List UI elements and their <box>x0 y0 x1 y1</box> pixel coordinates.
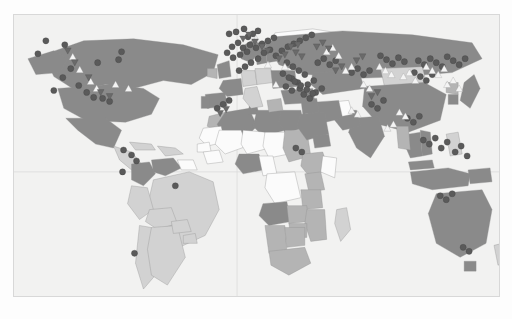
circle-marker[interactable] <box>172 183 178 189</box>
circle-marker[interactable] <box>349 70 355 76</box>
circle-marker[interactable] <box>464 153 470 159</box>
circle-marker[interactable] <box>389 61 395 67</box>
circle-marker[interactable] <box>315 60 321 66</box>
world-map-canvas[interactable]: GreenlandCanadaAlaskaUnited StatesMexico… <box>14 15 499 296</box>
circle-marker[interactable] <box>433 60 439 66</box>
circle-marker[interactable] <box>248 60 254 66</box>
circle-marker[interactable] <box>128 152 134 158</box>
circle-marker[interactable] <box>443 197 449 203</box>
circle-marker[interactable] <box>244 49 250 55</box>
circle-marker[interactable] <box>368 101 374 107</box>
country-portugal[interactable]: Portugal <box>201 96 209 108</box>
circle-marker[interactable] <box>290 64 296 70</box>
circle-marker[interactable] <box>230 55 236 61</box>
circle-marker[interactable] <box>417 73 423 79</box>
circle-marker[interactable] <box>416 113 422 119</box>
circle-marker[interactable] <box>283 83 289 89</box>
country-cuba[interactable]: Cuba <box>130 142 156 150</box>
circle-marker[interactable] <box>410 119 416 125</box>
country-kazakhstan[interactable]: Kazakhstan <box>311 71 365 95</box>
circle-marker[interactable] <box>380 97 386 103</box>
circle-marker[interactable] <box>456 62 462 68</box>
circle-marker[interactable] <box>319 85 325 91</box>
circle-marker[interactable] <box>60 74 66 80</box>
circle-marker[interactable] <box>133 158 139 164</box>
circle-marker[interactable] <box>292 78 298 84</box>
circle-marker[interactable] <box>265 38 271 44</box>
country-new-zealand[interactable]: New Zealand <box>494 243 499 265</box>
circle-marker[interactable] <box>327 62 333 68</box>
circle-marker[interactable] <box>226 31 232 37</box>
country-angola[interactable]: Angola <box>259 202 291 226</box>
country-nigeria[interactable]: Nigeria <box>235 154 263 174</box>
country-argentina[interactable]: Argentina <box>147 226 185 286</box>
circle-marker[interactable] <box>242 64 248 70</box>
circle-marker[interactable] <box>432 135 438 141</box>
circle-marker[interactable] <box>237 52 243 58</box>
circle-marker[interactable] <box>286 74 292 80</box>
circle-marker[interactable] <box>321 56 327 62</box>
country-dr-congo[interactable]: DR Congo <box>265 172 301 204</box>
country-canada[interactable]: Canada <box>44 39 218 91</box>
circle-marker[interactable] <box>377 53 383 59</box>
circle-marker[interactable] <box>35 51 41 57</box>
country-madagascar[interactable]: Madagascar <box>335 208 351 242</box>
country-united-kingdom[interactable]: United Kingdom <box>217 61 231 79</box>
country-greece[interactable]: Greece <box>267 98 283 112</box>
circle-marker[interactable] <box>401 59 407 65</box>
circle-marker[interactable] <box>120 147 126 153</box>
circle-marker[interactable] <box>438 145 444 151</box>
circle-marker[interactable] <box>449 191 455 197</box>
circle-marker[interactable] <box>229 44 235 50</box>
circle-marker[interactable] <box>95 60 101 66</box>
circle-marker[interactable] <box>289 87 295 93</box>
circle-marker[interactable] <box>236 68 242 74</box>
country-south-korea[interactable]: South Korea <box>448 94 458 104</box>
circle-marker[interactable] <box>233 29 239 35</box>
circle-marker[interactable] <box>51 87 57 93</box>
circle-marker[interactable] <box>302 71 308 77</box>
circle-marker[interactable] <box>304 86 310 92</box>
country-venezuela[interactable]: Venezuela <box>151 158 181 176</box>
circle-marker[interactable] <box>426 141 432 147</box>
country-papua-new-guinea[interactable]: Papua New Guinea <box>468 168 492 184</box>
country-ireland[interactable]: Ireland <box>207 69 217 79</box>
circle-marker[interactable] <box>420 137 426 143</box>
circle-marker[interactable] <box>450 58 456 64</box>
country-somalia[interactable]: Somalia <box>321 156 337 178</box>
circle-marker[interactable] <box>298 82 304 88</box>
country-caribbean[interactable]: Caribbean <box>157 146 183 156</box>
circle-marker[interactable] <box>296 68 302 74</box>
country-germany[interactable]: Germany <box>241 71 257 87</box>
circle-marker[interactable] <box>76 82 82 88</box>
circle-marker[interactable] <box>255 56 261 62</box>
country-italy[interactable]: Italy <box>243 86 263 108</box>
circle-marker[interactable] <box>466 248 472 254</box>
circle-marker[interactable] <box>119 169 125 175</box>
circle-marker[interactable] <box>131 250 137 256</box>
country-malaysia[interactable]: Malaysia <box>408 160 434 170</box>
circle-marker[interactable] <box>271 35 277 41</box>
country-senegal[interactable]: Senegal <box>197 142 211 152</box>
circle-marker[interactable] <box>415 58 421 64</box>
country-myanmar[interactable]: Myanmar <box>396 126 410 150</box>
circle-marker[interactable] <box>91 94 97 100</box>
circle-marker[interactable] <box>423 77 429 83</box>
country-yemen[interactable]: Yemen <box>313 134 331 148</box>
circle-marker[interactable] <box>247 42 253 48</box>
circle-marker[interactable] <box>427 56 433 62</box>
circle-marker[interactable] <box>310 90 316 96</box>
country-mozambique[interactable]: Mozambique <box>305 210 327 242</box>
circle-marker[interactable] <box>253 45 259 51</box>
circle-marker[interactable] <box>360 71 366 77</box>
circle-marker[interactable] <box>255 28 261 34</box>
country-poland[interactable]: Poland <box>255 69 273 85</box>
country-tasmania[interactable]: Tasmania <box>464 261 476 271</box>
circle-marker[interactable] <box>299 149 305 155</box>
circle-marker[interactable] <box>452 149 458 155</box>
triangle-up-marker[interactable] <box>450 77 457 84</box>
circle-marker[interactable] <box>309 32 315 38</box>
circle-marker[interactable] <box>462 56 468 62</box>
country-uruguay[interactable]: Uruguay <box>183 233 197 243</box>
circle-marker[interactable] <box>366 68 372 74</box>
